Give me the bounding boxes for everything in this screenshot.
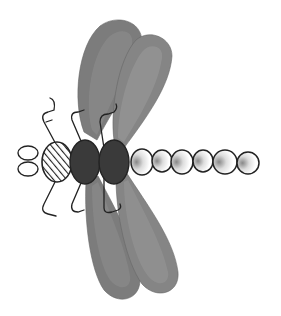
thorax-segment-1 [70,140,100,184]
upper-wings [78,20,172,148]
abdomen [131,149,259,175]
hatched-segment [42,142,72,182]
dragonfly-illustration [0,0,281,316]
thorax-segment-2 [99,140,129,184]
eye-lower [18,162,38,176]
abdomen-segment-1 [131,149,153,175]
head [18,146,38,176]
abdomen-segment-4 [193,150,213,172]
eye-upper [18,146,38,160]
dragonfly-figure: dragonfly-icon [0,0,281,316]
abdomen-segment-6 [237,152,259,174]
leg-upper-1 [43,98,58,148]
abdomen-segment-2 [152,150,172,172]
lower-wings [86,172,178,299]
abdomen-segment-5 [213,150,237,174]
abdomen-segment-3 [171,150,193,174]
